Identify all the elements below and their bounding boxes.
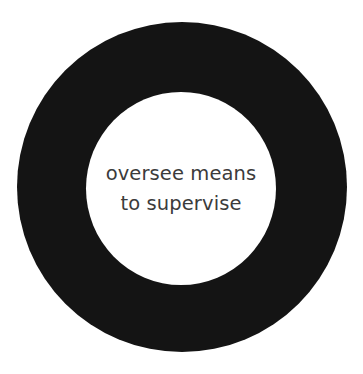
caption-line-1: oversee means [106, 159, 257, 189]
caption-line-2: to supervise [121, 189, 242, 219]
image-canvas: oversee means to supervise [0, 0, 363, 374]
caption-block: oversee means to supervise [86, 92, 276, 285]
